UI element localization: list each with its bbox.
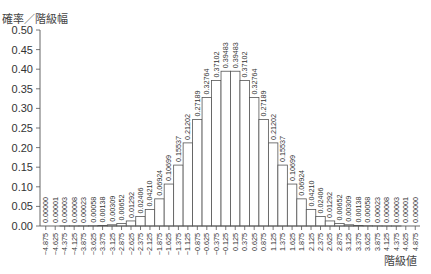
data-label: 0.10699	[288, 155, 297, 181]
data-label: 0.10699	[164, 155, 173, 181]
x-tick-label: −2.125	[145, 233, 154, 255]
data-label: 0.06924	[297, 170, 306, 196]
data-label: 0.15537	[278, 136, 287, 162]
x-tick-label: −0.125	[221, 233, 230, 255]
y-tick-label: 0.15	[12, 161, 33, 173]
data-label: 0.02406	[136, 188, 145, 214]
bar	[306, 210, 315, 227]
x-tick-label: −3.875	[79, 233, 88, 255]
data-label: 0.00309	[344, 196, 353, 222]
x-tick-label: 0.375	[240, 233, 249, 251]
x-tick-label: −2.625	[127, 233, 136, 255]
x-tick-label: 0.875	[259, 233, 268, 251]
data-label: 0.27189	[193, 90, 202, 116]
y-tick-label: 0.30	[12, 102, 33, 114]
data-label: 0.37102	[240, 52, 249, 78]
x-tick-label: −2.375	[136, 233, 145, 255]
x-tick-label: 4.125	[382, 233, 391, 251]
data-label: 0.00008	[382, 197, 391, 223]
data-label: 0.00138	[354, 196, 363, 222]
bar	[174, 165, 183, 226]
x-tick-label: −4.625	[51, 233, 60, 255]
data-label: 0.00008	[70, 197, 79, 223]
x-tick-label: −4.125	[70, 233, 79, 255]
bar	[136, 217, 145, 226]
data-label: 0.06924	[155, 170, 164, 196]
data-label: 0.00001	[51, 197, 60, 223]
x-tick-label: −1.625	[164, 233, 173, 255]
x-tick-label: 1.875	[297, 233, 306, 251]
data-label: 0.00000	[41, 197, 50, 223]
y-tick-label: 0.40	[12, 63, 33, 75]
x-tick-label: 4.625	[401, 233, 410, 251]
data-label: 0.01292	[325, 192, 334, 218]
x-tick-label: −0.625	[202, 233, 211, 255]
data-label: 0.00058	[363, 197, 372, 223]
bar	[297, 199, 306, 226]
bar	[249, 98, 258, 226]
x-tick-label: 4.875	[411, 233, 420, 251]
data-label: 0.00023	[79, 197, 88, 223]
x-tick-label: −3.625	[89, 233, 98, 255]
x-tick-label: 2.625	[325, 233, 334, 251]
x-tick-label: 1.125	[269, 233, 278, 251]
data-label: 0.00309	[108, 196, 117, 222]
y-tick-label: 0.10	[12, 181, 33, 193]
bar	[221, 71, 230, 226]
y-tick-label: 0.00	[12, 220, 33, 232]
data-label: 0.04210	[145, 181, 154, 207]
bar	[145, 210, 154, 227]
bar	[231, 71, 240, 226]
x-tick-label: 2.875	[335, 233, 344, 251]
x-tick-label: −4.375	[60, 233, 69, 255]
data-label: 0.04210	[307, 181, 316, 207]
y-tick-label: 0.05	[12, 200, 33, 212]
bar	[183, 143, 192, 226]
data-label: 0.21202	[183, 114, 192, 140]
data-label: 0.39483	[221, 42, 230, 68]
y-tick-label: 0.25	[12, 122, 33, 134]
x-tick-label: −1.375	[174, 233, 183, 255]
x-tick-label: 3.875	[373, 233, 382, 251]
data-label: 0.00001	[401, 197, 410, 223]
x-tick-label: −4.875	[41, 233, 50, 255]
x-tick-label: 3.625	[363, 233, 372, 251]
data-label: 0.00652	[335, 194, 344, 220]
x-tick-label: 3.125	[344, 233, 353, 251]
y-tick-label: 0.20	[12, 142, 33, 154]
x-tick-label: −1.125	[183, 233, 192, 255]
data-label: 0.00000	[411, 197, 420, 223]
bar	[212, 81, 221, 226]
data-label: 0.00138	[98, 196, 107, 222]
x-tick-label: 2.375	[316, 233, 325, 251]
x-tick-label: −2.875	[117, 233, 126, 255]
x-tick-label: −3.125	[108, 233, 117, 255]
x-tick-label: 1.375	[278, 233, 287, 251]
data-label: 0.00058	[89, 197, 98, 223]
bar	[316, 217, 325, 226]
x-tick-label: 4.375	[392, 233, 401, 251]
y-tick-label: 0.50	[12, 24, 33, 36]
bar	[278, 165, 287, 226]
bar	[259, 119, 268, 226]
x-tick-label: −0.375	[212, 233, 221, 255]
data-label: 0.32764	[250, 69, 259, 95]
data-label: 0.37102	[212, 52, 221, 78]
bar	[193, 119, 202, 226]
data-label: 0.00003	[392, 197, 401, 223]
data-label: 0.00652	[117, 194, 126, 220]
bar	[268, 143, 277, 226]
bar	[287, 184, 296, 226]
histogram-chart: 0.000000.000010.000030.000080.000230.000…	[0, 0, 431, 274]
x-tick-label: −0.875	[193, 233, 202, 255]
x-tick-label: 0.625	[250, 233, 259, 251]
x-tick-label: 2.125	[307, 233, 316, 251]
bar	[240, 81, 249, 226]
bar	[164, 184, 173, 226]
x-tick-label: 1.625	[288, 233, 297, 251]
bar	[155, 199, 164, 226]
bar	[202, 98, 211, 226]
data-label: 0.39483	[231, 42, 240, 68]
data-label: 0.32764	[202, 69, 211, 95]
data-label: 0.00003	[60, 197, 69, 223]
